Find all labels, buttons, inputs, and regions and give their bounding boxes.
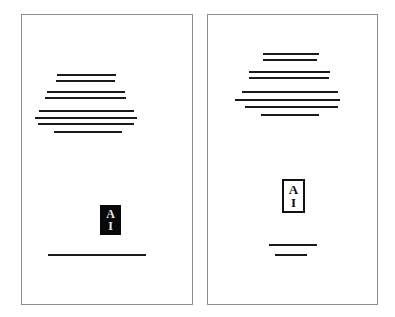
redacted-text-line-6 [235,99,340,101]
redacted-text-line-3 [47,91,125,93]
redacted-text-line-3 [249,71,330,73]
redacted-text-line-7 [245,106,338,108]
document-canvas: AI AI [0,0,395,317]
redacted-text-line-2 [263,59,317,61]
redacted-text-line-4 [45,97,126,99]
redacted-text-line-1 [57,74,116,76]
redacted-text-line-2 [56,80,115,82]
redacted-text-line-5 [39,110,134,112]
footer-text-line-2 [275,254,307,256]
redacted-text-line-8 [261,114,319,116]
document-page-left[interactable]: AI [21,14,193,305]
redacted-text-line-8 [54,131,122,133]
ai-logo-inverted[interactable]: AI [100,205,121,235]
footer-text-line-1 [269,244,317,246]
document-page-right[interactable]: AI [207,14,378,305]
redacted-text-line-7 [38,123,134,125]
redacted-text-line-1 [263,53,319,55]
redacted-text-line-4 [249,77,329,79]
redacted-text-line-6 [35,117,137,119]
redacted-text-line-5 [242,91,338,93]
ai-logo-outlined[interactable]: AI [282,179,305,213]
logo-letter-i: I [291,196,296,209]
footer-text-line-1 [48,254,146,256]
logo-letter-i: I [108,220,113,232]
